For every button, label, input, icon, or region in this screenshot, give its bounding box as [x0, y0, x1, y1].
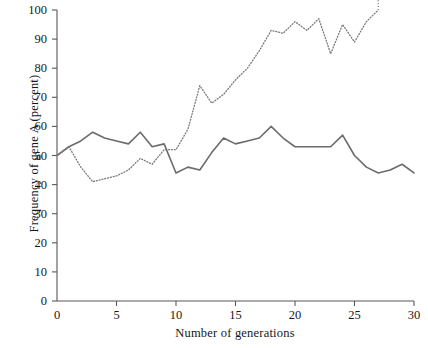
x-tick-marks: [117, 301, 415, 306]
axis-lines: [57, 10, 414, 301]
data-series-layer: [57, 0, 414, 182]
series-line-solid-population: [57, 126, 414, 173]
series-line-dotted-population: [57, 10, 378, 182]
chart-figure: Frequency of gene A (percent) Number of …: [0, 0, 428, 348]
plot-area: [0, 0, 428, 348]
